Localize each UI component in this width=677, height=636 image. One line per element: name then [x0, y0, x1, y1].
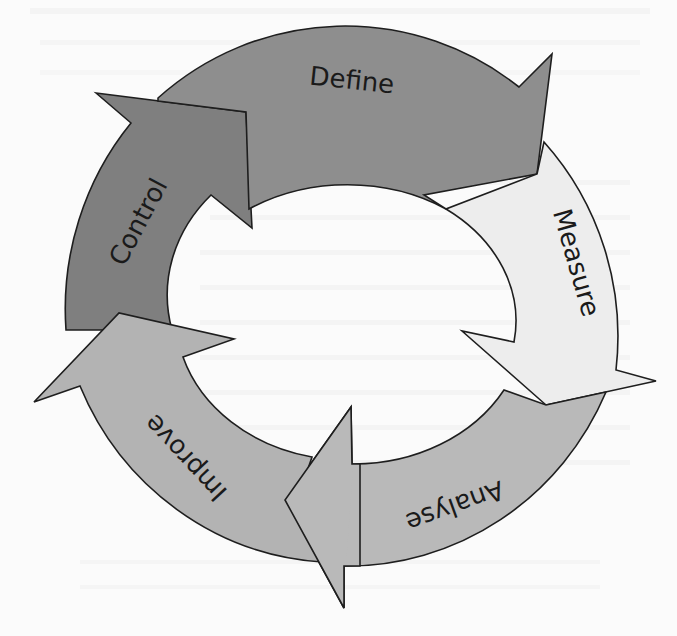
cycle-svg: Define Measure Analyse Improve Control	[0, 0, 677, 636]
dmaic-cycle-diagram: Define Measure Analyse Improve Control	[0, 0, 677, 636]
analyse-arrowhead	[285, 407, 360, 608]
